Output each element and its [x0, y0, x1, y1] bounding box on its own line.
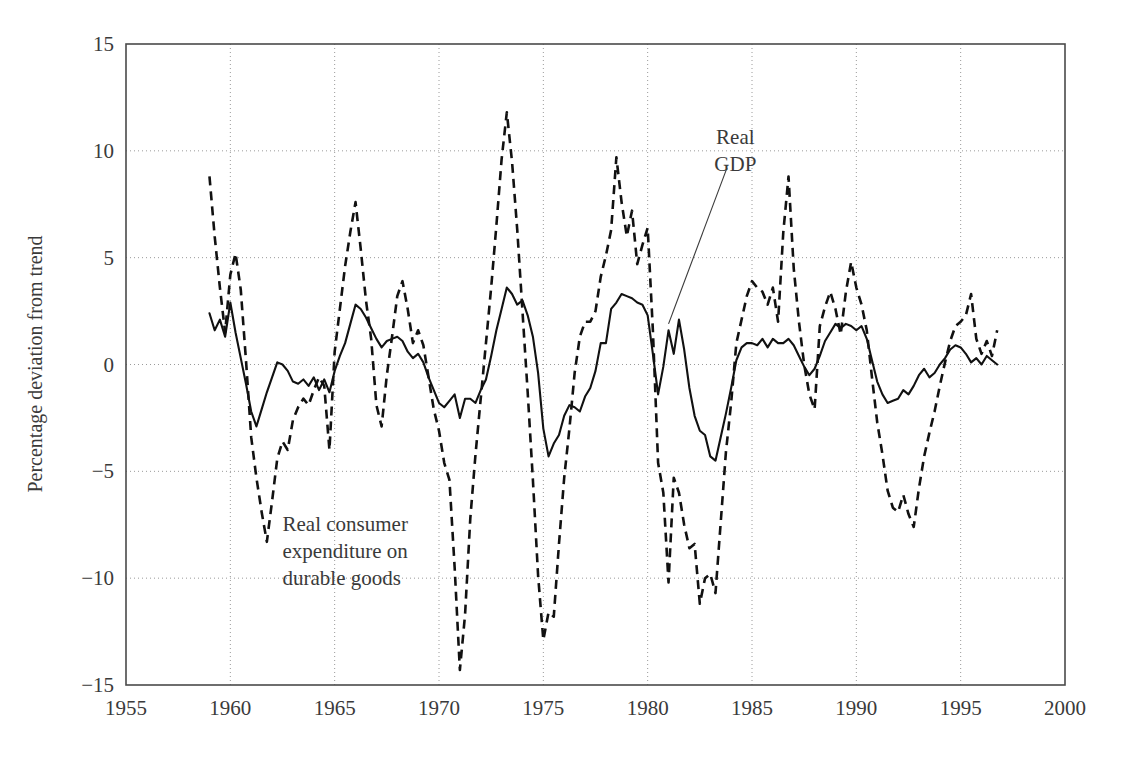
x-tick-labels: 1955196019651970197519801985199019952000: [105, 696, 1086, 720]
y-axis-title-text: Percentage deviation from trend: [24, 235, 47, 492]
chart-canvas: 1955196019651970197519801985199019952000…: [0, 0, 1140, 758]
y-tick-label-15: 15: [93, 32, 114, 56]
x-tick-label-1960: 1960: [209, 696, 251, 720]
x-tick-label-1970: 1970: [418, 696, 460, 720]
x-tick-label-1990: 1990: [835, 696, 877, 720]
y-tick-label-neg5: −5: [92, 459, 114, 483]
real-gdp-annotation-line-1: Real: [716, 125, 755, 149]
x-tick-label-1980: 1980: [627, 696, 669, 720]
y-axis-title: Percentage deviation from trend: [24, 235, 47, 492]
x-tick-label-1965: 1965: [314, 696, 356, 720]
real-consumer-durables-annotation-line-1: Real consumer: [283, 512, 408, 536]
x-tick-label-1955: 1955: [105, 696, 147, 720]
y-tick-label-0: 0: [104, 353, 115, 377]
x-tick-label-1985: 1985: [731, 696, 773, 720]
real-consumer-durables-annotation-line-3: durable goods: [283, 566, 401, 590]
real-consumer-durables-annotation: Real consumerexpenditure ondurable goods: [283, 512, 409, 590]
y-tick-label-neg10: −10: [81, 566, 114, 590]
y-tick-label-10: 10: [93, 139, 114, 163]
y-tick-label-5: 5: [104, 246, 115, 270]
real-consumer-durables-annotation-line-2: expenditure on: [283, 539, 409, 563]
y-tick-label-neg15: −15: [81, 673, 114, 697]
chart-figure: 1955196019651970197519801985199019952000…: [0, 0, 1140, 758]
real-gdp-annotation-line-2: GDP: [714, 152, 756, 176]
y-tick-labels: 151050−5−10−15: [81, 32, 114, 697]
x-tick-label-1995: 1995: [940, 696, 982, 720]
x-tick-label-1975: 1975: [522, 696, 564, 720]
x-tick-label-2000: 2000: [1044, 696, 1086, 720]
